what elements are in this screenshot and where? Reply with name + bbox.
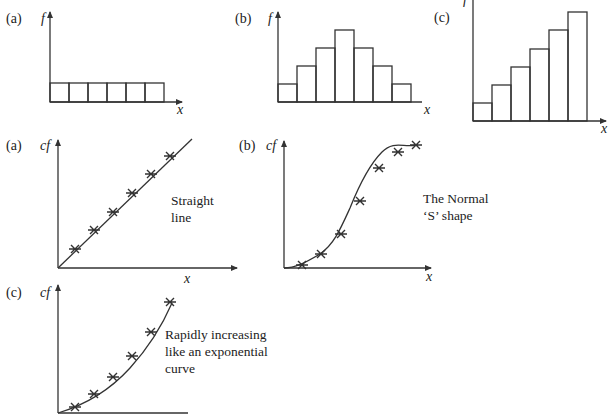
histogram-bars (50, 83, 164, 102)
cumulative-a-x-axis-label: x (184, 272, 190, 286)
cumulative-b-label: (b) (239, 139, 255, 153)
data-point-crosses (296, 141, 422, 269)
data-point-crosses (69, 152, 176, 253)
histogram-a-x-axis-label: x (177, 103, 183, 117)
histogram-bars (278, 30, 411, 102)
histogram-c-y-axis-label: f (463, 0, 467, 7)
histogram-bars (473, 12, 587, 121)
cumulative-a-y-axis-label: cf (40, 139, 50, 153)
cumulative-a-note: Straight line (171, 192, 214, 226)
histogram-b-y-axis-label: f (268, 12, 272, 26)
note-line: curve (165, 360, 268, 377)
histogram-c (473, 0, 606, 121)
cumulative-b-note: The Normal ‘S’ shape (423, 190, 489, 224)
note-line: ‘S’ shape (423, 207, 489, 224)
histogram-b-label: (b) (235, 12, 251, 26)
histogram-b-x-axis-label: x (424, 103, 430, 117)
histogram-a-label: (a) (6, 12, 22, 26)
data-point-crosses (69, 298, 176, 411)
histogram-a-y-axis-label: f (41, 12, 45, 26)
histogram-c-label: (c) (434, 11, 450, 25)
cf-curve (284, 145, 416, 268)
cumulative-c-y-axis-label: cf (40, 286, 50, 300)
cumulative-b (284, 141, 431, 269)
note-line: line (171, 209, 214, 226)
note-line: Rapidly increasing (165, 326, 268, 343)
histogram-b (278, 12, 422, 102)
cumulative-b-x-axis-label: x (426, 270, 432, 284)
histogram-c-x-axis-label: x (601, 122, 607, 136)
cumulative-c-note: Rapidly increasing like an exponential c… (165, 326, 268, 377)
cumulative-c-label: (c) (6, 286, 22, 300)
cf-curve (58, 303, 172, 413)
cumulative-b-y-axis-label: cf (266, 139, 276, 153)
figure-canvas (0, 0, 612, 415)
note-line: The Normal (423, 190, 489, 207)
cumulative-a-label: (a) (6, 139, 22, 153)
histogram-a (50, 12, 182, 102)
note-line: like an exponential (165, 343, 268, 360)
note-line: Straight (171, 192, 214, 209)
